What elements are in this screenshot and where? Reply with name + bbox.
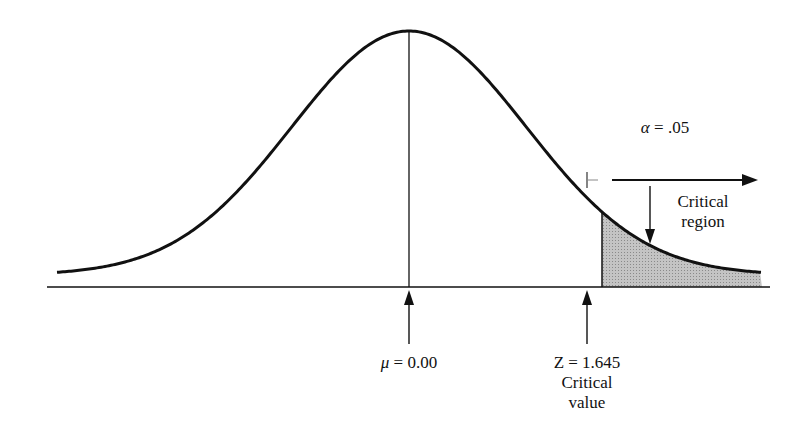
alpha-label: α = .05 bbox=[620, 118, 710, 138]
critical-value-pointer-arrow bbox=[582, 290, 592, 344]
critical-region-label: Critical region bbox=[668, 192, 738, 232]
mean-pointer-arrow bbox=[404, 290, 414, 344]
critical-region-range-arrow bbox=[587, 172, 758, 188]
critical-region-pointer-arrow bbox=[645, 186, 655, 244]
critical-value-label: Z = 1.645 Critical value bbox=[537, 353, 637, 413]
mean-label: μ = 0.00 bbox=[359, 353, 459, 373]
